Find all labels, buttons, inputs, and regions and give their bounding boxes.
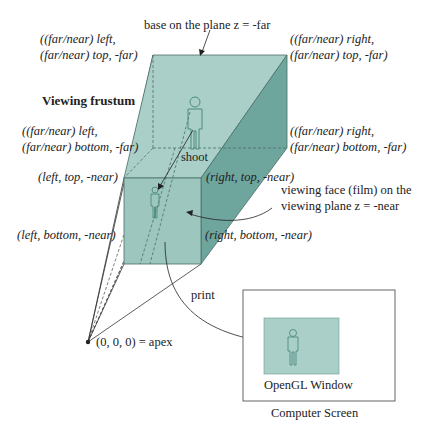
near-left-top-label: (left, top, -near) [38, 170, 118, 185]
viewing-face-label-2: viewing plane z = -near [281, 199, 399, 214]
far-left-top-label-2: (far/near) top, -far) [40, 48, 138, 63]
far-left-bottom-label-1: ((far/near) left, [22, 124, 98, 139]
near-left-bottom-label: (left, bottom, -near) [17, 228, 116, 243]
viewing-face-label-1: viewing face (film) on the [281, 183, 412, 198]
far-left-bottom-label-2: (far/near) bottom, -far) [22, 140, 138, 155]
near-right-bottom-label: (right, bottom, -near) [205, 228, 312, 243]
frustum-title: Viewing frustum [42, 93, 135, 108]
far-right-top-label-1: ((far/near) right, [290, 32, 374, 47]
base-plane-label: base on the plane z = -far [144, 18, 270, 33]
opengl-window-label: OpenGL Window [264, 378, 353, 393]
shoot-label: shoot [181, 150, 208, 165]
near-viewing-face [124, 178, 201, 264]
far-left-top-label-1: ((far/near) left, [40, 32, 116, 47]
print-label: print [191, 288, 215, 303]
apex-label: (0, 0, 0) = apex [96, 335, 172, 350]
far-right-bottom-label-1: ((far/near) right, [290, 124, 374, 139]
far-right-bottom-label-2: (far/near) bottom, -far) [290, 140, 406, 155]
frustum-diagram [0, 0, 421, 440]
far-right-top-label-2: (far/near) top, -far) [290, 48, 388, 63]
opengl-window [264, 318, 339, 374]
computer-screen-label: Computer Screen [271, 406, 358, 421]
